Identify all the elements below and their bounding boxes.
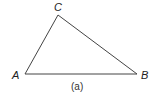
vertex-label-c: C xyxy=(54,1,62,13)
vertex-label-b: B xyxy=(141,69,148,81)
figure-caption: (a) xyxy=(71,81,83,92)
triangle-abc xyxy=(25,15,137,74)
vertex-label-a: A xyxy=(11,69,19,81)
triangle-diagram: C A B (a) xyxy=(0,0,161,93)
